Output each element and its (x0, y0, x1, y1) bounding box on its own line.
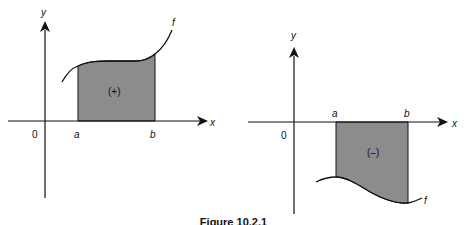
right-y-label: y (290, 30, 297, 41)
right-panel-negative-area: y x 0 a b f (–) (248, 30, 458, 214)
figure-caption: Figure 10.2.1 (0, 216, 467, 225)
left-x-label: x (209, 117, 216, 128)
left-panel-positive-area: y x 0 a b f (+) (8, 7, 216, 198)
right-origin-label: 0 (281, 130, 287, 141)
right-x-label: x (451, 118, 458, 129)
left-f-label: f (172, 17, 176, 28)
left-origin-label: 0 (32, 129, 38, 140)
left-region-sign: (+) (108, 86, 121, 97)
right-f-label: f (424, 195, 428, 206)
right-region-sign: (–) (367, 147, 379, 158)
right-a-label: a (332, 108, 338, 119)
left-y-label: y (40, 7, 47, 18)
left-b-label: b (150, 129, 156, 140)
left-a-label: a (74, 129, 80, 140)
right-shaded-region (336, 122, 408, 203)
right-b-label: b (404, 108, 410, 119)
integral-sign-diagram: y x 0 a b f (+) y x 0 a b f (–) (0, 0, 467, 225)
